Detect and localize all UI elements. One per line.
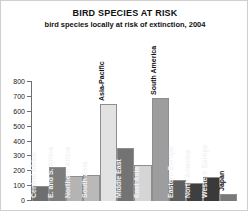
bar-slot: East Asia [134,81,151,201]
chart-subtitle: bird species locally at risk of extincti… [1,20,248,29]
bar[interactable]: East Asia [134,165,151,201]
y-tick-mark [27,96,31,97]
bar-slot: Japan [220,81,237,201]
bar-category-label: Western Europe [201,144,208,198]
y-tick-mark [27,126,31,127]
y-tick-label: 700 [13,92,25,99]
y-tick-mark [27,141,31,142]
bar-category-label: Northern Africa [64,147,71,198]
bar-category-label: E. and S. Africa [47,147,54,198]
bar-category-label: Central Africa [30,152,37,198]
bar[interactable]: Middle East [117,148,134,201]
y-tick-mark [27,111,31,112]
y-tick-mark [27,81,31,82]
y-tick-label: 800 [13,78,25,85]
bar-category-label: North America [184,150,191,198]
y-tick-label: 200 [13,167,25,174]
y-tick-mark [27,200,31,201]
chart-title: BIRD SPECIES AT RISK [1,8,248,18]
bar-slot: Middle East [117,81,134,201]
bar-category-label: South America [150,46,157,95]
y-tick-label: 500 [13,122,25,129]
plot-area: 0100200300400500600700800 Central Africa… [31,81,237,201]
bar-series: Central AfricaE. and S. AfricaNorthern A… [32,81,237,201]
bar-category-label: East Asia [133,167,140,198]
bar[interactable]: South Asia [83,175,100,201]
bar-category-label: Eastern Europe [167,146,174,198]
bar[interactable]: Japan [220,194,237,201]
chart-frame: BIRD SPECIES AT RISK bird species locall… [0,0,248,211]
y-tick-label: 300 [13,152,25,159]
bar-category-label: South Asia [81,162,88,198]
bar-category-label: Japan [218,171,225,191]
y-tick-label: 400 [13,137,25,144]
bar-category-label: Middle East [115,159,122,198]
y-tick-label: 600 [13,107,25,114]
bar-category-label: Asia-Pacific [98,62,105,102]
y-tick-label: 100 [13,182,25,189]
y-tick-label: 0 [21,197,25,204]
